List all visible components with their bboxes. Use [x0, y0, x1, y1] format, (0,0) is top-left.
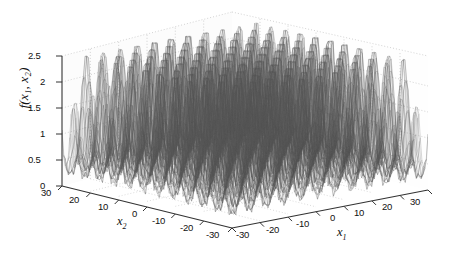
- x1-tick-m30: -30: [236, 229, 249, 240]
- x1-tick-10: 10: [354, 207, 364, 218]
- x2-axis-label: x2: [117, 214, 127, 231]
- x2-tick-10: 10: [98, 201, 108, 212]
- x1-tick-20: 20: [382, 201, 392, 212]
- z-tick-1: 1: [40, 128, 45, 139]
- x2-tick-m20: -20: [180, 222, 193, 233]
- surface-plot-figure: f(x₁, x₂): [0, 0, 466, 273]
- z-tick-2_5: 2.5: [28, 50, 41, 61]
- z-tick-0_5: 0.5: [28, 154, 41, 165]
- z-axis-ticks: [56, 56, 62, 186]
- z-tick-2: 2: [40, 76, 45, 87]
- x1-tick-30: 30: [410, 196, 420, 207]
- x1-axis-label: x1: [337, 225, 347, 242]
- x1-tick-m10: -10: [296, 218, 309, 229]
- x1-tick-m20: -20: [266, 224, 279, 235]
- x2-tick-m10: -10: [152, 215, 165, 226]
- x2-tick-30: 30: [41, 187, 51, 198]
- z-tick-1_5: 1.5: [28, 102, 41, 113]
- plot-canvas: [0, 0, 466, 273]
- x2-tick-0: 0: [132, 208, 137, 219]
- x2-tick-20: 20: [69, 194, 79, 205]
- x1-tick-0: 0: [330, 212, 335, 223]
- x2-tick-m30: -30: [206, 229, 219, 240]
